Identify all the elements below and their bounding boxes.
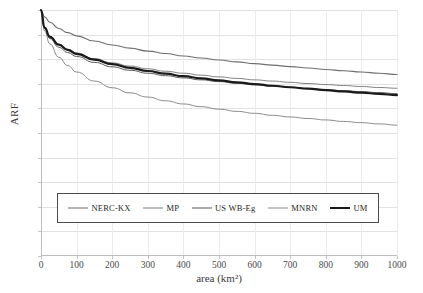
x-tick-label: 800 xyxy=(306,260,346,270)
series-line-mp xyxy=(41,10,397,88)
x-tick-label: 700 xyxy=(270,260,310,270)
x-tick-mark xyxy=(361,256,362,259)
arf-area-chart: ARF 0.00.10.20.30.40.50.60.70.80.91.0 01… xyxy=(0,0,423,293)
x-tick-mark xyxy=(77,256,78,259)
legend-line-swatch-icon xyxy=(68,205,88,211)
x-tick-mark xyxy=(397,256,398,259)
legend-label: UM xyxy=(353,203,367,213)
legend-label: MP xyxy=(166,203,179,213)
legend-item-mnrn[interactable]: MNRN xyxy=(268,203,317,213)
legend-item-us-wb-eg[interactable]: US WB-Eg xyxy=(192,203,255,213)
legend-label: US WB-Eg xyxy=(215,203,255,213)
y-axis-title: ARF xyxy=(8,84,20,144)
chart-legend: NERC-KXMPUS WB-EgMNRNUM xyxy=(57,193,379,223)
legend-item-mp[interactable]: MP xyxy=(143,203,179,213)
x-tick-mark xyxy=(255,256,256,259)
x-tick-mark xyxy=(41,256,42,259)
x-tick-mark xyxy=(326,256,327,259)
x-tick-mark xyxy=(148,256,149,259)
x-tick-label: 400 xyxy=(163,260,203,270)
series-line-mnrn xyxy=(41,10,397,125)
x-tick-label: 500 xyxy=(199,260,239,270)
x-axis-title: area (km²) xyxy=(41,272,397,284)
legend-item-nerc-kx[interactable]: NERC-KX xyxy=(68,203,130,213)
gridline-vertical xyxy=(397,10,398,256)
legend-item-um[interactable]: UM xyxy=(330,203,367,213)
legend-line-swatch-icon xyxy=(268,205,288,211)
legend-label: NERC-KX xyxy=(91,203,130,213)
x-tick-label: 900 xyxy=(341,260,381,270)
legend-line-swatch-icon xyxy=(330,205,350,211)
x-tick-label: 200 xyxy=(92,260,132,270)
x-tick-label: 0 xyxy=(21,260,61,270)
x-tick-mark xyxy=(219,256,220,259)
x-tick-label: 1000 xyxy=(377,260,417,270)
legend-line-swatch-icon xyxy=(192,205,212,211)
x-tick-mark xyxy=(112,256,113,259)
legend-label: MNRN xyxy=(291,203,317,213)
plot-area: 0.00.10.20.30.40.50.60.70.80.91.0 010020… xyxy=(41,10,397,256)
x-tick-label: 300 xyxy=(128,260,168,270)
series-line-nerc-kx xyxy=(41,10,397,74)
x-tick-mark xyxy=(183,256,184,259)
x-tick-label: 600 xyxy=(235,260,275,270)
x-tick-label: 100 xyxy=(57,260,97,270)
legend-line-swatch-icon xyxy=(143,205,163,211)
series-line-um xyxy=(41,10,397,95)
x-tick-mark xyxy=(290,256,291,259)
